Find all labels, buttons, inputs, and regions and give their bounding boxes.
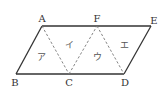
region-label-e: エ xyxy=(120,40,129,50)
edge-BA xyxy=(16,26,42,74)
edge-AC-dashed xyxy=(42,26,69,74)
vertex-label-E: E xyxy=(150,15,157,26)
vertex-label-B: B xyxy=(11,77,18,88)
vertex-label-F: F xyxy=(94,13,101,24)
edge-FD-dashed xyxy=(97,26,124,74)
vertex-label-D: D xyxy=(121,77,129,88)
region-label-u: ウ xyxy=(93,52,102,62)
parallelogram-diagram: A F E B C D ア イ ウ エ xyxy=(0,0,166,90)
region-label-i: イ xyxy=(65,40,74,50)
edge-ED xyxy=(124,26,151,74)
edge-CF-dashed xyxy=(69,26,97,74)
vertex-label-C: C xyxy=(65,77,73,88)
region-label-a: ア xyxy=(37,52,46,62)
vertex-label-A: A xyxy=(37,13,46,24)
